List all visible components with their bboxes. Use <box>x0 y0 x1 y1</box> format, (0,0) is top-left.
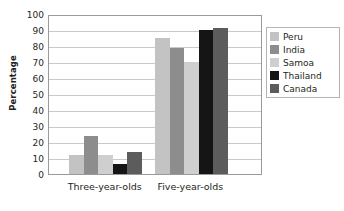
bar[interactable] <box>184 62 199 174</box>
bar-group <box>155 16 228 174</box>
bar[interactable] <box>213 28 228 174</box>
bar[interactable] <box>155 38 170 174</box>
y-axis-tick-label: 10 <box>17 155 44 164</box>
y-axis-tick-label: 50 <box>17 91 44 100</box>
bar[interactable] <box>199 30 214 174</box>
y-axis-tick-label: 0 <box>17 171 44 180</box>
y-axis-tick-label: 30 <box>17 123 44 132</box>
legend-item-label: Canada <box>283 84 317 94</box>
bars-layer <box>49 16 261 174</box>
legend-swatch-icon <box>270 71 279 80</box>
bar[interactable] <box>127 152 142 174</box>
bar[interactable] <box>98 155 113 174</box>
legend-item-label: India <box>283 45 305 55</box>
legend-item-label: Samoa <box>283 58 314 68</box>
legend-swatch-icon <box>270 84 279 93</box>
legend: PeruIndiaSamoaThailandCanada <box>266 27 340 98</box>
bar-chart: Percentage 1009080706050403020100 Three-… <box>0 0 344 211</box>
y-axis-tick-label: 60 <box>17 75 44 84</box>
y-axis-tick-label: 70 <box>17 59 44 68</box>
bar[interactable] <box>69 155 84 174</box>
y-axis-tick-label: 80 <box>17 43 44 52</box>
legend-item-label: Thailand <box>283 71 322 81</box>
legend-swatch-icon <box>270 32 279 41</box>
x-axis-tick-label: Five-year-olds <box>140 181 240 192</box>
bar[interactable] <box>84 136 99 174</box>
bar[interactable] <box>113 164 128 174</box>
legend-item-label: Peru <box>283 32 303 42</box>
bar-group <box>69 16 142 174</box>
y-axis-tick-label: 40 <box>17 107 44 116</box>
legend-item[interactable]: Peru <box>269 30 337 43</box>
y-axis-tick-labels: 1009080706050403020100 <box>17 15 44 175</box>
y-axis-tick-label: 100 <box>17 11 44 20</box>
legend-swatch-icon <box>270 45 279 54</box>
plot-area <box>48 15 262 175</box>
legend-item[interactable]: Samoa <box>269 56 337 69</box>
bar[interactable] <box>170 48 185 174</box>
legend-swatch-icon <box>270 58 279 67</box>
legend-item[interactable]: Thailand <box>269 69 337 82</box>
legend-item[interactable]: India <box>269 43 337 56</box>
y-axis-tick-label: 20 <box>17 139 44 148</box>
y-axis-tick-label: 90 <box>17 27 44 36</box>
legend-item[interactable]: Canada <box>269 82 337 95</box>
